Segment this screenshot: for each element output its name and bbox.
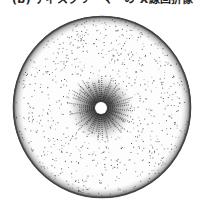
beam-stop-hole [95, 102, 107, 114]
diffraction-pattern-image [0, 0, 201, 216]
